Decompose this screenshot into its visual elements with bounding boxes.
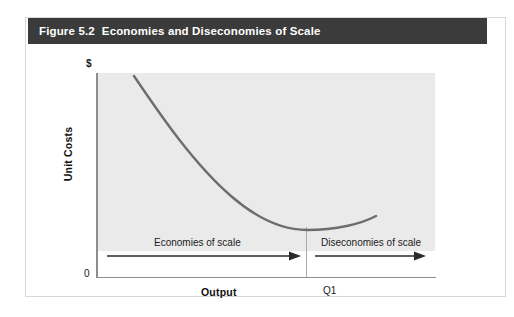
figure-title: Figure 5.2Economies and Diseconomies of … (39, 25, 321, 37)
diseconomies-of-scale-label: Diseconomies of scale (321, 237, 421, 248)
average-cost-curve (134, 76, 376, 230)
figure-number: Figure 5.2 (39, 25, 95, 37)
figure-title-bar: Figure 5.2Economies and Diseconomies of … (28, 18, 487, 44)
chart-canvas: $ 0 Unit Costs Output Q1 Economies of sc… (26, 44, 505, 296)
diseconomies-of-scale-arrow (314, 250, 427, 262)
figure-frame: Figure 5.2Economies and Diseconomies of … (25, 17, 506, 297)
economies-of-scale-label: Economies of scale (154, 237, 241, 248)
economies-of-scale-arrow (106, 250, 302, 262)
figure-title-text: Economies and Diseconomies of Scale (102, 25, 321, 37)
